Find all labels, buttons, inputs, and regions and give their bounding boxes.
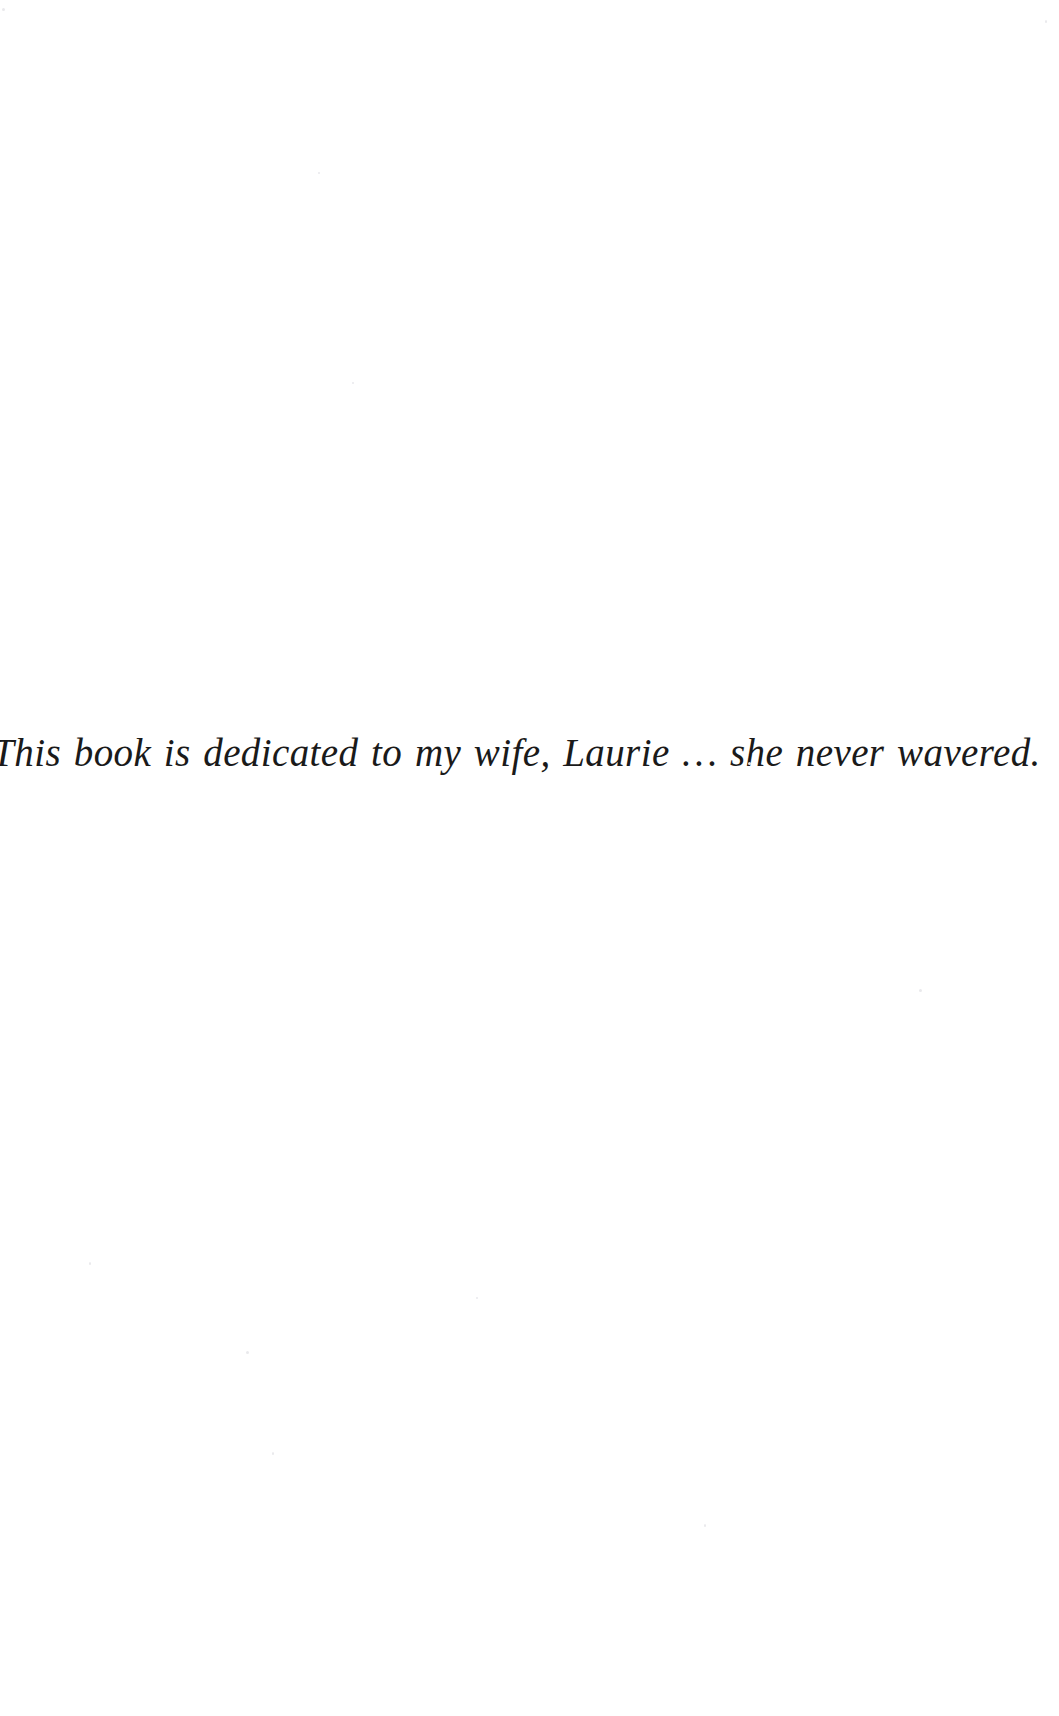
dedication-block: This book is dedicated to my wife, Lauri… — [0, 688, 1059, 818]
scan-speckle — [246, 1351, 249, 1354]
dedication-text: This book is dedicated to my wife, Lauri… — [0, 727, 1041, 779]
scan-speckle — [919, 989, 922, 992]
scan-speckle — [704, 1524, 706, 1527]
scan-speckle — [476, 1297, 478, 1299]
scan-speckle — [318, 172, 320, 174]
scan-speckle — [352, 382, 354, 384]
book-page: This book is dedicated to my wife, Lauri… — [0, 0, 1059, 1716]
scan-speckle — [1045, 20, 1047, 23]
scan-speckle — [89, 1262, 91, 1265]
scan-speckle — [272, 1452, 274, 1455]
scan-speckle — [2, 8, 5, 11]
